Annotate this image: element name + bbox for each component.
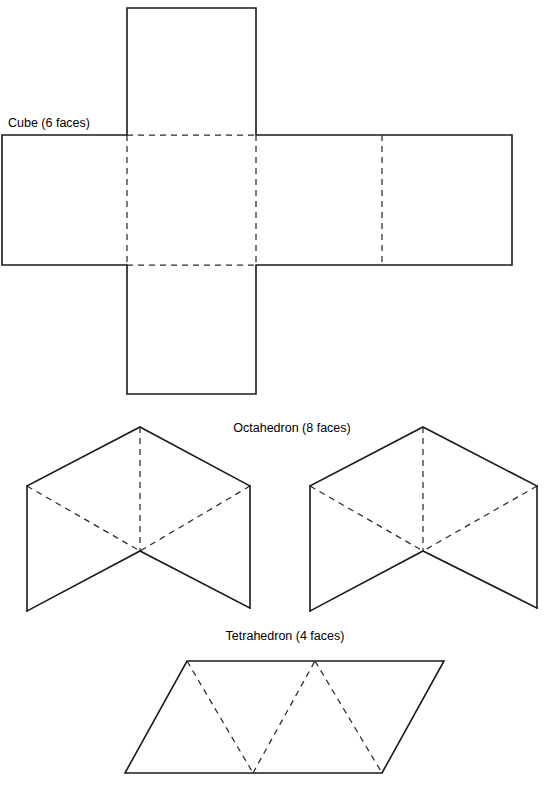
- octahedron-net-left: [27, 427, 250, 611]
- tetrahedron-net-fill: [125, 661, 444, 773]
- cube-net: Cube (6 faces): [2, 8, 512, 394]
- cube-net-fill: [2, 8, 512, 394]
- octahedron-label: Octahedron (8 faces): [233, 421, 350, 435]
- cube-label: Cube (6 faces): [8, 116, 90, 130]
- octahedron-net-right: Octahedron (8 faces): [233, 421, 537, 611]
- octahedron-left-upper-fill: [27, 427, 250, 611]
- tetrahedron-label: Tetrahedron (4 faces): [226, 629, 345, 643]
- tetrahedron-net: Tetrahedron (4 faces): [125, 629, 444, 773]
- polyhedra-nets-figure: Cube (6 faces): [0, 0, 549, 812]
- nets-diagram-canvas: Cube (6 faces): [0, 0, 549, 812]
